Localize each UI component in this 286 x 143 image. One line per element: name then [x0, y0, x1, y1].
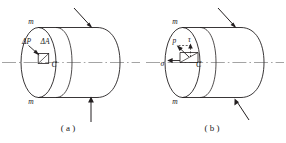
tau-label-b: τ	[188, 35, 191, 44]
delta-p-label-a: ΔP	[21, 37, 31, 46]
bottom-load-arrow-a	[88, 97, 94, 122]
tau-arrowhead-b	[188, 44, 193, 49]
panel-caption-a: ( a )	[61, 123, 76, 133]
top-load-arrow-b	[218, 8, 237, 28]
section-label-top-b: m	[172, 17, 178, 26]
point-label-b: C	[196, 60, 202, 69]
panel-a: m m ΔP ΔA C	[2, 8, 140, 133]
panel-caption-b: ( b )	[205, 123, 220, 133]
tau-vector-b	[179, 44, 193, 57]
sigma-label-b: σ	[161, 59, 165, 68]
delta-a-label-a: ΔA	[40, 37, 50, 46]
section-label-top-a: m	[28, 17, 34, 26]
engineering-figure: m m ΔP ΔA C	[0, 0, 286, 143]
area-element-diagonal-a	[38, 54, 49, 64]
bottom-load-arrow-b	[234, 99, 249, 120]
top-load-arrow-a	[74, 8, 93, 28]
point-label-a: C	[52, 60, 58, 69]
p-label-b: p	[172, 36, 177, 45]
section-label-bottom-a: m	[28, 97, 34, 106]
panel-b: m m	[146, 8, 284, 133]
p-vector-b	[177, 45, 189, 57]
figure-root: m m ΔP ΔA C	[0, 0, 286, 143]
delta-p-vector-a	[29, 46, 40, 56]
section-label-bottom-b: m	[172, 97, 178, 106]
